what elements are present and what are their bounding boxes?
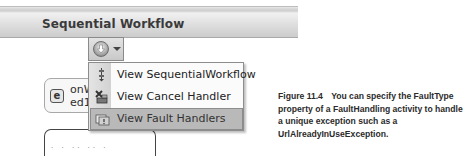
menu-item-view-sequential-workflow[interactable]: View SequentialWorkflow [90, 64, 242, 86]
cancel-handler-icon [94, 89, 109, 104]
figure-number: Figure 11.4 [278, 91, 323, 101]
fault-handlers-icon [95, 112, 110, 127]
lower-activity-container[interactable]: · · ·· ·· · [44, 129, 156, 156]
menu-item-view-fault-handlers[interactable]: View Fault Handlers [90, 108, 243, 130]
menu-item-view-cancel-handler[interactable]: View Cancel Handler [90, 86, 242, 108]
event-activity-icon: e [50, 89, 64, 103]
down-arrow-circle-icon [93, 41, 109, 57]
view-dropdown-button[interactable] [88, 37, 124, 61]
designer-header: Sequential Workflow [0, 6, 298, 38]
chevron-down-icon [113, 47, 121, 51]
workflow-title: Sequential Workflow [42, 17, 184, 31]
lower-box-text: · · ·· ·· · [51, 144, 108, 152]
sequential-workflow-icon [94, 67, 109, 82]
figure-caption: Figure 11.4 You can specify the FaultTyp… [278, 90, 468, 140]
view-menu: View SequentialWorkflow View Cancel Hand… [88, 62, 244, 131]
